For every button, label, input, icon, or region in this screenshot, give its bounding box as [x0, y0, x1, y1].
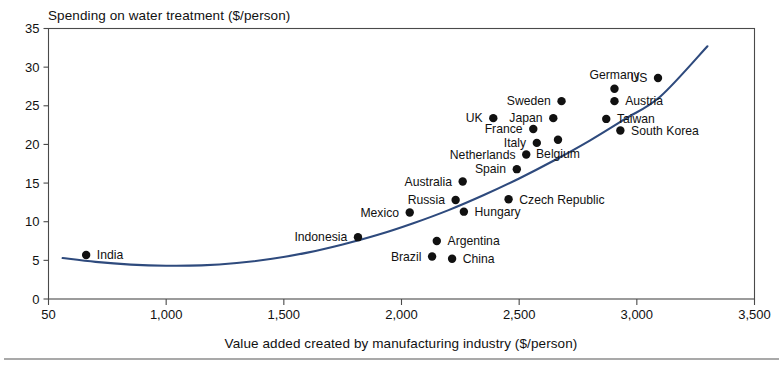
- x-axis-ticks: 501,0001,5002,0002,5003,0003,500: [41, 299, 771, 322]
- x-axis-title: Value added created by manufacturing ind…: [225, 336, 578, 351]
- data-point-label: Hungary: [475, 205, 522, 219]
- y-tick-label: 10: [25, 214, 39, 229]
- true: [448, 255, 456, 263]
- data-point[interactable]: Mexico: [360, 206, 414, 220]
- true: [549, 114, 557, 122]
- data-point-label: South Korea: [631, 124, 699, 138]
- data-point-label: Australia: [405, 175, 453, 189]
- x-tick-label: 1,500: [268, 307, 301, 322]
- y-tick-label: 5: [32, 253, 39, 268]
- data-point[interactable]: Austria: [610, 94, 663, 108]
- data-point-label: India: [97, 248, 124, 262]
- true: [513, 165, 521, 173]
- true: [460, 207, 468, 215]
- data-point-label: Sweden: [507, 94, 551, 108]
- true: [433, 237, 441, 245]
- true: [616, 126, 624, 134]
- y-tick-label: 15: [25, 176, 39, 191]
- true: [428, 252, 436, 260]
- data-point-label: Japan: [509, 111, 542, 125]
- x-tick-label: 3,000: [621, 307, 654, 322]
- scatter-chart: Spending on water treatment ($/person) 0…: [0, 0, 783, 371]
- data-point-label: Belgium: [536, 147, 580, 161]
- y-axis-title: Spending on water treatment ($/person): [48, 8, 290, 23]
- data-point-label: Indonesia: [294, 230, 347, 244]
- x-tick-label: 50: [41, 307, 55, 322]
- x-tick-label: 2,000: [385, 307, 418, 322]
- data-point-label: Argentina: [448, 234, 500, 248]
- true: [602, 115, 610, 123]
- true: [458, 177, 466, 185]
- data-point[interactable]: Sweden: [507, 94, 566, 108]
- true: [504, 195, 512, 203]
- data-point[interactable]: Spain: [475, 162, 521, 176]
- true: [533, 139, 541, 147]
- data-point[interactable]: China: [448, 252, 495, 266]
- data-point-label: US: [630, 71, 647, 85]
- data-point-label: Austria: [625, 94, 663, 108]
- data-point[interactable]: US: [630, 71, 662, 85]
- y-axis-ticks: 05101520253035: [25, 21, 48, 307]
- y-tick-label: 30: [25, 60, 39, 75]
- data-point[interactable]: Australia: [405, 175, 467, 189]
- data-point[interactable]: Russia: [408, 193, 460, 207]
- y-tick-label: 35: [25, 21, 39, 36]
- true: [406, 208, 414, 216]
- true: [522, 150, 530, 158]
- data-point[interactable]: Japan: [509, 111, 557, 125]
- true: [610, 97, 618, 105]
- data-point[interactable]: Argentina: [433, 234, 500, 248]
- data-point-label: China: [463, 252, 495, 266]
- data-point-label: Italy: [504, 136, 527, 150]
- y-tick-label: 0: [32, 292, 39, 307]
- data-point[interactable]: Hungary: [460, 205, 522, 219]
- true: [610, 85, 618, 93]
- data-point[interactable]: India: [82, 248, 124, 262]
- figure-container: Spending on water treatment ($/person) 0…: [0, 0, 783, 371]
- data-point-label: UK: [466, 111, 483, 125]
- true: [557, 97, 565, 105]
- data-point-label: Spain: [475, 162, 506, 176]
- true: [489, 114, 497, 122]
- data-point[interactable]: Belgium: [536, 136, 580, 161]
- data-point[interactable]: Brazil: [391, 250, 436, 264]
- y-tick-label: 25: [25, 98, 39, 113]
- x-tick-label: 2,500: [503, 307, 536, 322]
- data-point-label: Brazil: [391, 250, 421, 264]
- data-point-label: Czech Republic: [519, 193, 604, 207]
- true: [82, 251, 90, 259]
- data-point[interactable]: Czech Republic: [504, 193, 604, 207]
- y-tick-label: 20: [25, 137, 39, 152]
- x-tick-label: 3,500: [738, 307, 771, 322]
- true: [654, 74, 662, 82]
- true: [529, 125, 537, 133]
- x-tick-label: 1,000: [150, 307, 183, 322]
- data-point-label: Mexico: [360, 206, 399, 220]
- true: [554, 136, 562, 144]
- true: [451, 196, 459, 204]
- true: [354, 233, 362, 241]
- data-point-label: Russia: [408, 193, 445, 207]
- data-points-group: IndiaIndonesiaBrazilChinaArgentinaMexico…: [82, 68, 699, 266]
